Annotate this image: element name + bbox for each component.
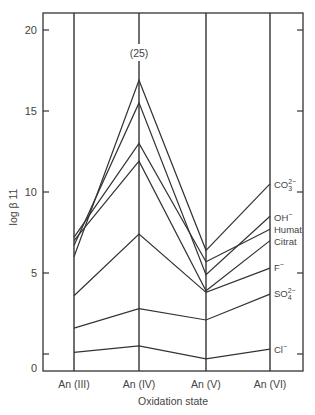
plot-border <box>43 13 303 371</box>
y-tick-label: 0 <box>31 362 37 374</box>
plot-frame <box>43 13 303 371</box>
x-category-label: An (III) <box>58 378 90 390</box>
y-tick-label: 20 <box>25 24 37 36</box>
y-tick-label: 5 <box>31 267 37 279</box>
series-label: Citrat <box>274 236 297 247</box>
series-line <box>74 143 270 261</box>
x-category-label: An (IV) <box>123 378 156 390</box>
y-tick-label: 10 <box>25 186 37 198</box>
series-line <box>74 80 270 257</box>
series-labels: CO32−OH−HumatCitratF−SO42−Cl− <box>274 178 302 355</box>
series-line <box>74 346 270 359</box>
series-label: Cl− <box>274 343 287 355</box>
annotation-label: (25) <box>130 47 149 59</box>
x-axis-title: Oxidation state <box>138 395 208 407</box>
y-axis-title: log β 11 <box>7 188 19 225</box>
series-lines <box>74 80 270 359</box>
stability-constant-chart: 05101520 An (III)An (IV)An (V)An (VI) CO… <box>0 0 315 415</box>
series-line <box>74 294 270 328</box>
series-label: Humat <box>274 224 302 235</box>
y-tick-label: 15 <box>25 105 37 117</box>
series-label: OH− <box>274 211 292 223</box>
series-line <box>74 103 270 275</box>
series-label: F− <box>274 261 284 273</box>
series-label: SO42− <box>274 287 296 301</box>
x-category-label: An (V) <box>191 378 221 390</box>
y-axis-ticks: 05101520 <box>25 24 303 374</box>
series-label: CO32− <box>274 178 296 192</box>
x-category-label: An (VI) <box>254 378 287 390</box>
